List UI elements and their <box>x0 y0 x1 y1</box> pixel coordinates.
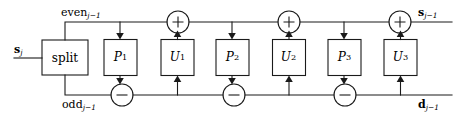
wire-split-to-odd-rail <box>65 75 111 95</box>
lifting-scheme-diagram: sj evenj−1 oddj−1 sj−1 dj−1 split P1 U1 … <box>0 0 459 122</box>
arrowhead-odd-to-u2 <box>285 76 293 83</box>
p3-block-label: P3 <box>328 39 361 75</box>
u2-block-label: U2 <box>272 39 305 75</box>
arrowhead-odd-to-u3 <box>397 76 405 83</box>
arrowhead-odd-to-u1 <box>174 76 182 83</box>
arrowhead-u1-to-adder1 <box>174 31 182 38</box>
p2-block-label: P2 <box>216 39 249 75</box>
arrowhead-u3-to-adder3 <box>397 31 405 38</box>
input-signal-label: sj <box>14 44 23 56</box>
split-block-label: split <box>42 40 88 75</box>
p1-block-label: P1 <box>104 39 137 75</box>
odd-branch-label: oddj−1 <box>62 99 96 111</box>
u3-block-label: U3 <box>384 39 417 75</box>
arrowhead-u2-to-adder2 <box>285 31 293 38</box>
operator-glyphs <box>117 17 406 96</box>
wire-split-to-even-rail <box>65 22 167 40</box>
output-detail-label: dj−1 <box>418 99 439 111</box>
output-approximation-label: sj−1 <box>418 7 438 19</box>
u1-block-label: U1 <box>161 39 194 75</box>
even-branch-label: evenj−1 <box>61 7 101 19</box>
